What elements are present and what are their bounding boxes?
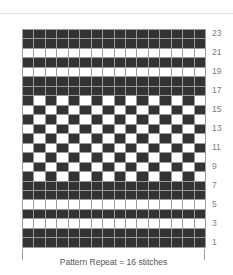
chart-cell [103,39,114,48]
chart-cell [103,134,114,143]
chart-cell [148,162,159,171]
chart-cell [114,48,125,57]
chart-cell [91,30,102,39]
chart-cell [183,143,194,152]
chart-cell [57,67,68,76]
chart-cell [80,219,91,228]
chart-cell [68,67,79,76]
chart-row [23,172,206,181]
chart-cell [114,228,125,237]
chart-cell [160,86,171,95]
chart-cell [125,162,136,171]
chart-cell [183,153,194,162]
chart-cell [171,105,182,114]
chart-cell [103,115,114,124]
chart-cell [57,96,68,105]
chart-cell [171,200,182,209]
chart-cell [103,238,114,247]
chart-cell [57,134,68,143]
chart-cell [160,115,171,124]
chart-cell [23,86,34,95]
chart-cell [148,238,159,247]
chart-cell [34,96,45,105]
chart-cell [91,124,102,133]
chart-cell [160,39,171,48]
chart-cell [148,86,159,95]
row-number-label: 3 [212,219,217,228]
chart-cell [171,48,182,57]
chart-row [23,124,206,133]
chart-row [23,219,206,228]
chart-cell [114,153,125,162]
chart-cell [114,39,125,48]
chart-cell [80,200,91,209]
chart-cell [80,30,91,39]
chart-cell [23,200,34,209]
chart-cell [34,153,45,162]
chart-cell [91,238,102,247]
chart-cell [91,181,102,190]
chart-cell [103,77,114,86]
chart-cell [23,162,34,171]
chart-cell [160,228,171,237]
row-number-label: 1 [212,238,217,247]
chart-cell [91,39,102,48]
row-number-label: 11 [212,143,221,152]
chart-cell [125,190,136,199]
chart-cell [23,228,34,237]
chart-cell [103,228,114,237]
chart-cell [45,30,56,39]
chart-cell [80,190,91,199]
chart-cell [57,48,68,57]
chart-cell [57,39,68,48]
chart-cell [171,77,182,86]
chart-cell [91,228,102,237]
chart-cell [183,67,194,76]
chart-cell [80,115,91,124]
chart-row [23,200,206,209]
chart-cell [137,200,148,209]
chart-cell [194,181,205,190]
chart-cell [34,200,45,209]
chart-cell [80,124,91,133]
chart-cell [34,124,45,133]
chart-row [23,181,206,190]
chart-cell [114,96,125,105]
chart-cell [160,105,171,114]
chart-row [23,238,206,247]
chart-cell [148,209,159,218]
chart-cell [23,143,34,152]
chart-cell [34,86,45,95]
chart-cell [68,48,79,57]
chart-cell [103,124,114,133]
chart-cell [57,200,68,209]
row-number-label: 19 [212,67,221,76]
chart-cell [114,134,125,143]
chart-cell [171,115,182,124]
chart-cell [23,153,34,162]
chart-row [23,96,206,105]
chart-cell [57,77,68,86]
chart-cell [114,124,125,133]
chart-cell [34,48,45,57]
row-number-label: 15 [212,105,221,114]
chart-row [23,162,206,171]
chart-cell [148,200,159,209]
chart-cell [80,143,91,152]
chart-cell [34,39,45,48]
row-number-label: 17 [212,86,221,95]
chart-cell [23,30,34,39]
chart-cell [125,39,136,48]
chart-cell [183,48,194,57]
chart-cell [125,209,136,218]
chart-cell [103,143,114,152]
chart-cell [45,96,56,105]
chart-cell [148,48,159,57]
chart-cell [57,162,68,171]
chart-cell [103,209,114,218]
chart-cell [183,172,194,181]
chart-cell [160,181,171,190]
chart-cell [194,30,205,39]
chart-cell [34,228,45,237]
chart-cell [114,200,125,209]
